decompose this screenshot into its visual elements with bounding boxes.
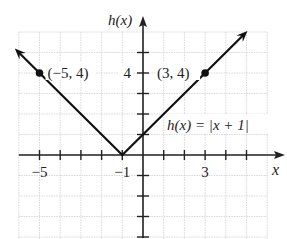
- x-tick-label: −5: [32, 164, 48, 180]
- function-curve: [15, 31, 248, 155]
- function-label: h(x) = |x + 1|: [167, 117, 249, 134]
- y-tick-label: 4: [124, 65, 132, 81]
- point-label: (−5, 4): [48, 65, 89, 82]
- top-cut-text: (−∞, ∞), [0, ∞): [18, 0, 109, 1]
- data-point: [201, 69, 209, 77]
- y-axis-label: h(x): [108, 12, 132, 29]
- x-tick-label: 3: [201, 164, 209, 180]
- x-axis-label: x: [271, 161, 279, 178]
- x-tick-label: −1: [114, 164, 130, 180]
- data-point: [36, 69, 44, 77]
- graph: −5−134(−5, 4)(3, 4)h(x) = |x + 1|h(x)x(−…: [0, 0, 287, 239]
- point-label: (3, 4): [157, 65, 190, 82]
